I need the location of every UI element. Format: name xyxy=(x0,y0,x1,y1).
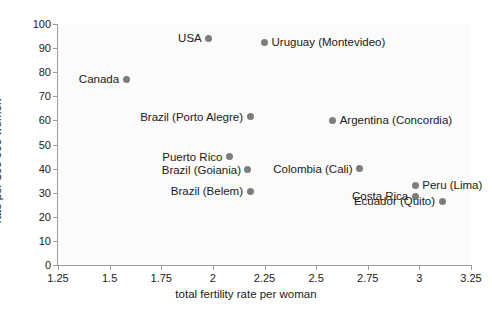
y-tick-mark xyxy=(53,241,58,242)
y-tick-label: 40 xyxy=(39,163,51,175)
data-point[interactable] xyxy=(205,35,212,42)
data-point[interactable] xyxy=(247,113,254,120)
x-tick-label: 2.75 xyxy=(357,272,378,284)
plot-area: 0102030405060708090100 1.251.51.7522.252… xyxy=(57,24,471,266)
data-point[interactable] xyxy=(123,76,130,83)
x-tick-label: 2 xyxy=(210,272,216,284)
y-tick-mark xyxy=(53,120,58,121)
data-point[interactable] xyxy=(412,182,419,189)
y-axis-title: rate per 100 000 women xyxy=(0,99,3,224)
y-tick-mark xyxy=(53,48,58,49)
y-tick-mark xyxy=(53,193,58,194)
y-tick-label: 20 xyxy=(39,211,51,223)
data-point-label: Peru (Lima) xyxy=(422,179,482,191)
x-tick-label: 1.5 xyxy=(102,272,117,284)
data-point-label: Canada xyxy=(79,73,119,85)
data-point[interactable] xyxy=(261,39,268,46)
data-point[interactable] xyxy=(439,198,446,205)
x-tick-mark xyxy=(419,265,420,270)
x-tick-label: 1.25 xyxy=(47,272,68,284)
data-point-label: Ecuador (Quito) xyxy=(354,195,435,207)
x-tick-mark xyxy=(368,265,369,270)
y-tick-label: 70 xyxy=(39,90,51,102)
y-tick-label: 90 xyxy=(39,42,51,54)
data-point-label: Brazil (Belem) xyxy=(171,185,243,197)
y-tick-mark xyxy=(53,96,58,97)
x-tick-mark xyxy=(58,265,59,270)
data-point-label: Uruguay (Montevideo) xyxy=(272,36,386,48)
y-tick-mark xyxy=(53,169,58,170)
data-point-label: USA xyxy=(178,32,202,44)
x-tick-mark xyxy=(161,265,162,270)
data-point-label: Brazil (Goiania) xyxy=(162,164,241,176)
x-tick-label: 1.75 xyxy=(151,272,172,284)
data-point-label: Argentina (Concordia) xyxy=(340,114,453,126)
data-point[interactable] xyxy=(356,165,363,172)
data-point[interactable] xyxy=(329,117,336,124)
x-tick-label: 2.25 xyxy=(254,272,275,284)
y-tick-mark xyxy=(53,145,58,146)
x-axis-title: total fertility rate per woman xyxy=(0,288,492,300)
x-tick-label: 3.25 xyxy=(460,272,481,284)
y-tick-label: 0 xyxy=(45,259,51,271)
x-tick-label: 2.5 xyxy=(308,272,323,284)
data-point[interactable] xyxy=(244,166,251,173)
y-tick-label: 80 xyxy=(39,66,51,78)
x-tick-mark xyxy=(213,265,214,270)
x-tick-mark xyxy=(265,265,266,270)
y-tick-mark xyxy=(53,24,58,25)
data-point[interactable] xyxy=(226,153,233,160)
y-tick-label: 60 xyxy=(39,114,51,126)
data-point-label: Colombia (Cali) xyxy=(273,163,352,175)
x-tick-mark xyxy=(110,265,111,270)
y-tick-label: 50 xyxy=(39,139,51,151)
y-tick-label: 10 xyxy=(39,235,51,247)
scatter-chart: rate per 100 000 women total fertility r… xyxy=(0,0,492,310)
data-point[interactable] xyxy=(247,188,254,195)
data-point-label: Puerto Rico xyxy=(162,151,222,163)
y-tick-mark xyxy=(53,72,58,73)
y-tick-mark xyxy=(53,217,58,218)
y-tick-label: 30 xyxy=(39,187,51,199)
x-tick-mark xyxy=(316,265,317,270)
y-tick-label: 100 xyxy=(33,18,51,30)
data-point-label: Brazil (Porto Alegre) xyxy=(140,111,243,123)
x-tick-label: 3 xyxy=(416,272,422,284)
x-tick-mark xyxy=(471,265,472,270)
